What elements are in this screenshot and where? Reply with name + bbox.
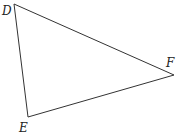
vertex-label-e: E [18, 121, 28, 135]
vertex-label-d: D [1, 4, 12, 18]
triangle-def [14, 4, 174, 117]
triangle-diagram: D F E [0, 0, 186, 139]
vertex-label-f: F [165, 56, 175, 70]
